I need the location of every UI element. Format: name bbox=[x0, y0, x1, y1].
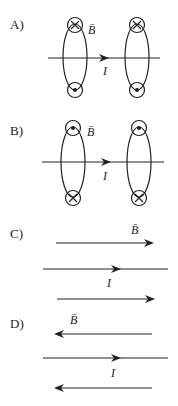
option-d[interactable]: D) B̄ I bbox=[10, 313, 168, 388]
magnetic-field-options-figure: A) I B̄ B) I B̄ bbox=[0, 0, 178, 406]
option-a-label: A) bbox=[10, 17, 24, 32]
field-symbol: B̄ bbox=[131, 223, 139, 237]
current-symbol: I bbox=[106, 276, 112, 290]
option-d-label: D) bbox=[10, 316, 24, 331]
field-symbol: B̄ bbox=[87, 125, 95, 139]
option-a[interactable]: A) I B̄ bbox=[10, 17, 160, 98]
current-symbol: I bbox=[110, 366, 116, 380]
field-loop-right bbox=[127, 121, 151, 206]
option-b-label: B) bbox=[10, 123, 23, 138]
option-c[interactable]: C) B̄ I bbox=[10, 223, 168, 299]
field-loop-left bbox=[61, 121, 85, 206]
field-symbol: B̄ bbox=[70, 313, 78, 327]
current-symbol: I bbox=[102, 64, 108, 78]
field-symbol: B̄ bbox=[88, 23, 96, 37]
option-b[interactable]: B) I B̄ bbox=[10, 121, 164, 206]
current-symbol: I bbox=[102, 169, 108, 183]
option-c-label: C) bbox=[10, 226, 23, 241]
